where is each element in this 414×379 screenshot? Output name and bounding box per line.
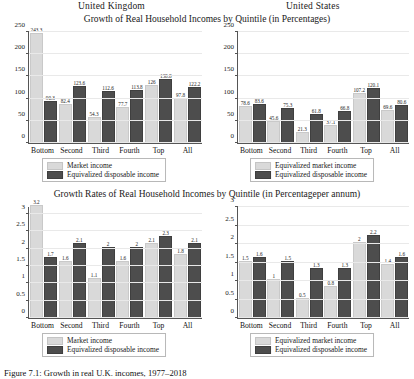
x-axis-label: Fourth [115, 146, 144, 155]
y-tick-label: 150 [224, 66, 235, 73]
chart-panel-us-levels: 78.683.645.675.321.361.837.166.8107.2120… [211, 28, 413, 188]
bar-cluster: 82.4123.6 [58, 32, 87, 143]
bar: 126 [145, 85, 158, 143]
y-tick-mark [235, 142, 238, 143]
gridline [29, 248, 202, 249]
y-tick-mark [235, 299, 238, 300]
x-axis-label: Fourth [323, 321, 352, 330]
x-axis-labels: BottomSecondThirdFourthTopAll [28, 146, 202, 155]
gridline [29, 265, 202, 266]
bar-value-label: 1.6 [120, 256, 126, 262]
bar: 1.8 [174, 254, 187, 318]
bar: 1.6 [116, 261, 129, 319]
bar-cluster: 97.8122.2 [173, 32, 202, 143]
y-tick-mark [26, 282, 29, 283]
y-tick-mark [26, 142, 29, 143]
bar-group: 243.390.382.4123.654.3112.677.7113.81261… [29, 32, 202, 143]
x-axis-label: All [380, 321, 409, 330]
gridline [238, 31, 409, 32]
y-tick-mark [26, 317, 29, 318]
x-axis-labels: BottomSecondThirdFourthTopAll [237, 321, 409, 330]
y-tick-label: 3 [22, 203, 26, 210]
panel-title-united-kingdom: United Kingdom [78, 1, 145, 11]
x-axis-label: All [173, 146, 202, 155]
bar: 80.6 [395, 105, 408, 143]
bar-value-label: 1.8 [177, 249, 183, 255]
y-tick-label: 2 [231, 234, 235, 241]
y-tick-label: 0.5 [225, 289, 234, 296]
legend-item-market-income: Market income [47, 161, 159, 170]
bar-value-label: 1 [272, 274, 275, 280]
bar-value-label: 2 [107, 242, 110, 248]
legend-swatch-dark-icon [255, 171, 271, 179]
legend-label-light: Equivalized market income [275, 162, 356, 170]
x-axis-label: Third [86, 321, 115, 330]
panel-title-united-states: United States [286, 1, 340, 11]
bar: 0.5 [296, 298, 309, 318]
bar-value-label: 1.1 [91, 273, 97, 279]
bar-value-label: 2.2 [370, 230, 376, 236]
bar: 2.2 [367, 235, 380, 318]
bar: 78.6 [239, 106, 252, 143]
y-tick-label: 250 [224, 22, 235, 29]
y-tick-mark [235, 317, 238, 318]
chart-panel-uk-rates: 3.21.71.62.11.121.622.12.31.82.1 00.511.… [2, 203, 206, 363]
bar-value-label: 1.5 [242, 256, 248, 262]
y-tick-label: 50 [227, 110, 234, 117]
legend-item-market-income: Market income [47, 336, 159, 345]
bar: 69.6 [381, 110, 394, 143]
y-tick-mark [235, 280, 238, 281]
bar-cluster: 45.675.3 [267, 32, 296, 143]
bar-cluster: 1.82.1 [173, 207, 202, 318]
plot-area: 243.390.382.4123.654.3112.677.7113.81261… [28, 32, 202, 144]
x-axis-label: Top [352, 321, 381, 330]
bar-cluster: 1.62.1 [58, 207, 87, 318]
gridline [29, 31, 202, 32]
x-axis-label: Third [86, 146, 115, 155]
x-axis-label: Second [266, 321, 295, 330]
bar-cluster: 107.2120.1 [352, 32, 381, 143]
bar-value-label: 1.3 [342, 263, 348, 269]
bar: 83.6 [253, 104, 266, 143]
bar-value-label: 123.6 [73, 81, 85, 87]
legend-label-light: Market income [67, 162, 112, 170]
bar: 0.8 [324, 286, 337, 318]
bar: 1.3 [338, 268, 351, 318]
bar-value-label: 122.2 [189, 82, 201, 88]
y-tick-mark [26, 98, 29, 99]
y-tick-label: 0 [231, 308, 235, 315]
gridline [238, 206, 409, 207]
chart-title-top: Growth of Real Household Incomes by Quin… [0, 14, 414, 24]
y-tick-label: 200 [224, 44, 235, 51]
x-axis-label: Bottom [28, 321, 57, 330]
bar-cluster: 21.361.8 [295, 32, 324, 143]
chart-title-bottom: Growth Rates of Real Household Incomes b… [0, 189, 414, 199]
bar: 112.6 [102, 91, 115, 143]
legend-swatch-dark-icon [47, 346, 63, 354]
legend-swatch-dark-icon [47, 171, 63, 179]
bar: 1.6 [59, 261, 72, 319]
y-tick-mark [26, 213, 29, 214]
bar-value-label: 21.3 [298, 127, 307, 133]
legend-swatch-light-icon [255, 337, 271, 345]
x-axis-labels: BottomSecondThirdFourthTopAll [28, 321, 202, 330]
bar-group: 78.683.645.675.321.361.837.166.8107.2120… [238, 32, 409, 143]
legend-label-dark: Equivalized disposable income [67, 171, 159, 179]
gridline [238, 142, 409, 143]
bar-cluster: 54.3112.6 [87, 32, 116, 143]
legend-item-market-income: Equivalized market income [255, 336, 367, 345]
x-axis-label: Fourth [323, 146, 352, 155]
bar-value-label: 75.3 [283, 103, 292, 109]
bar-value-label: 1.7 [47, 252, 53, 258]
bar-cluster: 78.683.6 [238, 32, 267, 143]
bar: 45.6 [267, 121, 280, 143]
x-axis-label: Bottom [237, 321, 266, 330]
gridline [29, 120, 202, 121]
bar-value-label: 3.2 [33, 200, 39, 206]
legend-swatch-light-icon [255, 162, 271, 170]
x-axis-label: Second [266, 146, 295, 155]
y-tick-mark [26, 31, 29, 32]
bar-value-label: 66.8 [340, 106, 349, 112]
y-tick-label: 0 [231, 133, 235, 140]
bar-value-label: 82.4 [61, 99, 70, 105]
